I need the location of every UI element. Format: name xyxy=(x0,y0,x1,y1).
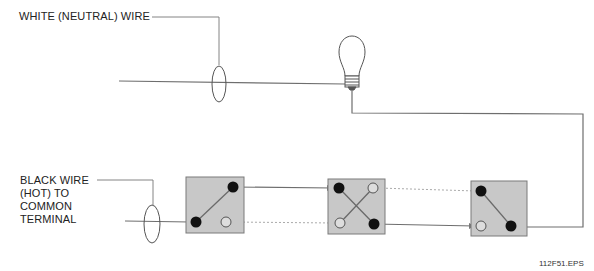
black-wire-label-line: BLACK WIRE xyxy=(20,174,89,187)
four-way-switch xyxy=(328,179,385,234)
traveler-solid-2 xyxy=(374,224,475,226)
terminal-filled xyxy=(334,183,345,194)
terminal-open xyxy=(221,217,231,227)
terminal-common xyxy=(191,217,202,228)
black-wire-leader xyxy=(97,180,153,205)
hot-wire xyxy=(125,221,190,222)
terminal-common xyxy=(506,221,517,232)
terminal-filled xyxy=(228,182,239,193)
terminal-open xyxy=(476,221,486,231)
traveler-solid-1 xyxy=(233,187,333,188)
white-wire-label: WHITE (NEUTRAL) WIRE xyxy=(19,10,150,23)
wiring-diagram xyxy=(0,0,594,271)
terminal-open xyxy=(368,183,378,193)
traveler-dashed-2 xyxy=(378,188,476,191)
neutral-wire xyxy=(119,81,345,84)
white-wire-leader xyxy=(152,17,219,65)
black-wire-label-line: TERMINAL xyxy=(20,213,89,226)
cable-ellipse-hot xyxy=(144,205,160,243)
three-way-switch-1 xyxy=(186,177,244,233)
traveler-dashed-1 xyxy=(231,222,335,223)
figure-id: 112F51.EPS xyxy=(539,259,584,268)
three-way-switch-2 xyxy=(471,181,527,236)
switch-leg-wire xyxy=(352,90,583,227)
terminal-open xyxy=(335,218,345,228)
black-wire-label-line: COMMON xyxy=(20,200,89,213)
black-wire-label-line: (HOT) TO xyxy=(20,187,89,200)
light-bulb-icon xyxy=(339,36,365,90)
terminal-filled xyxy=(476,186,487,197)
cable-ellipse-neutral xyxy=(212,66,226,102)
terminal-filled xyxy=(369,219,380,230)
black-wire-label: BLACK WIRE (HOT) TO COMMON TERMINAL xyxy=(20,174,89,226)
